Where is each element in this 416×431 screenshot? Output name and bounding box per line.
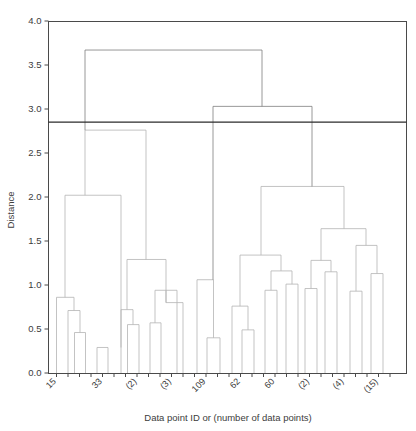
x-tick-label-1: 33 <box>90 376 104 390</box>
dendrogram-link-m25 <box>356 245 377 291</box>
y-tick-label-5: 2.5 <box>28 147 41 158</box>
dendrogram-link-m19 <box>265 290 277 373</box>
x-tick-label-7: (2) <box>296 376 311 391</box>
dendrogram-link-m2 <box>68 311 80 373</box>
dendrogram-link-m6 <box>121 310 133 373</box>
dendrogram-link-m18 <box>271 271 292 290</box>
dendrogram-link-m12 <box>85 130 146 259</box>
y-tick-label-8: 4.0 <box>28 15 41 26</box>
dendrogram-link-m3 <box>75 333 86 373</box>
dendrogram-link-m23 <box>325 272 337 373</box>
x-tick-label-8: (4) <box>331 376 346 391</box>
dendrogram-link-m11 <box>166 290 183 373</box>
dendrogram-link-m14 <box>207 338 220 373</box>
dendrogram-link-m15 <box>232 306 248 373</box>
dendrogram-link-m29 <box>213 106 312 279</box>
dendrogram-link-m4 <box>97 347 108 373</box>
dendrogram-link-m7 <box>128 325 140 373</box>
dendrogram-link-m10 <box>150 323 161 373</box>
y-tick-label-4: 2.0 <box>28 191 41 202</box>
dendrogram-link-m21 <box>311 260 331 288</box>
y-tick-label-2: 1.0 <box>28 279 41 290</box>
x-tick-label-3: (3) <box>158 376 173 391</box>
x-tick-label-5: 62 <box>228 376 242 390</box>
dendrogram-link-m1 <box>57 297 75 373</box>
x-tick-labels: 1533(2)(3)1096260(2)(4)(15) <box>44 376 380 394</box>
x-axis-title: Data point ID or (number of data points) <box>144 412 311 423</box>
x-tick-label-0: 15 <box>44 376 58 390</box>
dendrogram-link-m26 <box>350 291 362 373</box>
dendrogram-link-m27 <box>371 274 383 373</box>
dendrogram-link-m16 <box>242 330 254 373</box>
dendrogram-svg: 0.00.51.01.52.02.53.03.54.0 1533(2)(3)10… <box>0 0 416 431</box>
y-tick-label-7: 3.5 <box>28 59 41 70</box>
dendrogram-link-m28 <box>261 186 344 255</box>
dendrogram-links <box>57 50 384 373</box>
y-tick-label-1: 0.5 <box>28 323 41 334</box>
plot-frame <box>49 22 407 374</box>
dendrogram-link-m13 <box>197 280 214 373</box>
dendrogram-link-m17 <box>240 255 281 306</box>
y-tick-label-0: 0.0 <box>28 367 41 378</box>
dendrogram-figure: 0.00.51.01.52.02.53.03.54.0 1533(2)(3)10… <box>0 0 416 431</box>
x-tick-label-2: (2) <box>124 376 139 391</box>
dendrogram-link-m22 <box>305 289 317 373</box>
x-tick-label-6: 60 <box>262 376 276 390</box>
y-tick-label-3: 1.5 <box>28 235 41 246</box>
y-axis: 0.00.51.01.52.02.53.03.54.0 <box>28 15 48 378</box>
y-tick-label-6: 3.0 <box>28 103 41 114</box>
y-axis-title: Distance <box>5 192 16 229</box>
x-tick-label-9: (15) <box>362 376 380 394</box>
dendrogram-link-m5 <box>65 195 121 347</box>
x-tick-label-4: 109 <box>190 376 208 394</box>
dendrogram-link-m8 <box>127 259 166 309</box>
dendrogram-link-m30 <box>85 50 262 130</box>
dendrogram-link-m20 <box>286 284 298 373</box>
dendrogram-link-m24 <box>321 229 366 261</box>
